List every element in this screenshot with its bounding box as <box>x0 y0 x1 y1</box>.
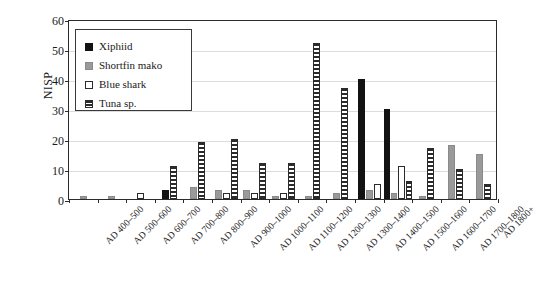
bar-tuna <box>231 139 238 199</box>
bar-mako <box>243 190 250 199</box>
bar-xiphiid <box>162 190 169 199</box>
bar-blue <box>280 193 287 199</box>
legend-label: Tuna sp. <box>99 98 137 109</box>
bar-group <box>469 21 498 199</box>
x-axis-tick-mark <box>69 199 70 203</box>
x-axis-tick-mark <box>126 199 127 203</box>
x-axis-tick-mark <box>155 199 156 203</box>
y-axis-tick-label: 30 <box>52 105 64 117</box>
bar-group <box>212 21 241 199</box>
bar-xiphiid <box>384 109 390 199</box>
bar-mako <box>333 193 340 199</box>
bar-mako <box>272 196 279 199</box>
bar-blue <box>398 166 404 199</box>
legend-label: Blue shark <box>99 79 146 90</box>
y-axis-tick-label: 50 <box>52 45 64 57</box>
x-axis-tick-mark <box>212 199 213 203</box>
x-axis-tick-mark <box>183 199 184 203</box>
bar-group <box>441 21 470 199</box>
bar-blue <box>374 184 381 199</box>
bar-tuna <box>427 148 434 199</box>
bar-mako <box>476 154 483 199</box>
x-axis-tick-mark <box>441 199 442 203</box>
bar-group <box>355 21 384 199</box>
bar-mako <box>190 187 197 199</box>
y-axis-tick-label: 10 <box>52 165 64 177</box>
y-axis-tick-label: 20 <box>52 135 64 147</box>
bar-tuna <box>313 43 320 199</box>
bar-mako <box>448 145 455 199</box>
x-axis-tick-mark <box>384 199 385 203</box>
bar-tuna <box>198 142 205 199</box>
bar-group <box>269 21 298 199</box>
bar-tuna <box>288 163 295 199</box>
bar-tuna <box>456 169 463 199</box>
legend-item: Tuna sp. <box>85 94 191 113</box>
x-axis-tick-mark <box>355 199 356 203</box>
y-axis-tick-label: 60 <box>52 15 64 27</box>
x-axis-tick-mark <box>98 199 99 203</box>
legend-swatch-tuna <box>85 100 93 108</box>
y-axis-tick-label: 0 <box>58 195 64 207</box>
bar-group <box>241 21 270 199</box>
bar-mako <box>366 190 373 199</box>
bar-blue <box>251 193 258 199</box>
legend: XiphiidShortfin makoBlue sharkTuna sp. <box>75 29 192 111</box>
bar-group <box>384 21 413 199</box>
bar-group <box>298 21 327 199</box>
bar-blue <box>137 193 144 199</box>
x-axis-tick-mark <box>241 199 242 203</box>
bar-group <box>326 21 355 199</box>
bar-mako <box>215 190 222 199</box>
x-axis-tick-mark <box>412 199 413 203</box>
bar-mako <box>419 196 426 199</box>
bar-mako <box>305 196 312 199</box>
x-axis-tick-mark <box>469 199 470 203</box>
bar-xiphiid <box>358 79 365 199</box>
bar-mako <box>391 193 397 199</box>
legend-item: Blue shark <box>85 75 191 94</box>
bar-mako <box>108 196 115 199</box>
bar-blue <box>223 193 230 199</box>
y-axis-tick-label: 40 <box>52 75 64 87</box>
bar-tuna <box>170 166 177 199</box>
legend-swatch-mako <box>85 62 93 70</box>
bar-group <box>412 21 441 199</box>
x-axis-tick-mark <box>298 199 299 203</box>
legend-swatch-xiphiid <box>85 43 93 51</box>
legend-item: Xiphiid <box>85 37 191 56</box>
bar-mako <box>80 196 87 199</box>
legend-label: Xiphiid <box>99 41 133 52</box>
legend-label: Shortfin mako <box>99 60 162 71</box>
x-axis-tick-mark <box>269 199 270 203</box>
bar-tuna <box>259 163 266 199</box>
x-axis-tick-mark <box>498 199 499 203</box>
bar-tuna <box>341 88 348 199</box>
legend-swatch-blue <box>85 81 93 89</box>
x-axis-tick-mark <box>326 199 327 203</box>
bar-tuna <box>484 184 491 199</box>
legend-item: Shortfin mako <box>85 56 191 75</box>
